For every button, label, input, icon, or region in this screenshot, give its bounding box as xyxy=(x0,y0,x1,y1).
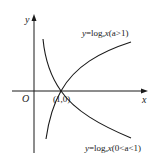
curve-label-a-gt-1: y=logax(a>1) xyxy=(82,29,128,38)
x-axis-label: x xyxy=(142,95,146,105)
origin-label: O xyxy=(22,94,29,104)
y-axis-label: y xyxy=(25,15,29,25)
curve-log-a-lt-1 xyxy=(43,39,131,138)
curve-label-a-lt-1: y=logax(0<a<1) xyxy=(85,144,141,153)
x-axis-arrow-icon xyxy=(141,89,148,94)
point-label: (1,0) xyxy=(53,95,70,104)
y-axis-arrow-icon xyxy=(32,14,37,21)
log-function-diagram: y x O (1,0) y=logax(a>1) y=logax(0<a<1) xyxy=(0,0,158,168)
